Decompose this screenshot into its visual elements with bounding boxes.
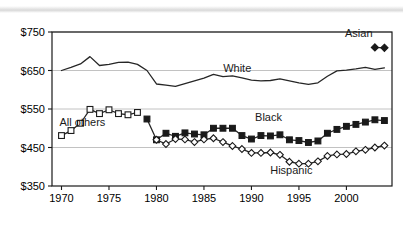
data-point-marker: [116, 111, 122, 117]
data-point-marker: [106, 107, 112, 113]
data-point-marker: [315, 158, 322, 165]
x-axis-tick-label: 1995: [287, 192, 311, 204]
data-point-marker: [381, 44, 388, 51]
data-point-marker: [210, 135, 217, 142]
data-point-marker: [353, 122, 359, 128]
data-point-marker: [239, 133, 245, 139]
series-label-black: Black: [255, 111, 282, 123]
data-point-marker: [248, 149, 255, 156]
data-point-marker: [182, 136, 189, 143]
data-point-marker: [220, 139, 227, 146]
x-axis-tick-label: 1970: [49, 192, 73, 204]
x-axis-tick-label: 1990: [239, 192, 263, 204]
data-point-marker: [144, 116, 150, 122]
data-point-marker: [125, 112, 131, 118]
data-point-marker: [59, 133, 65, 139]
data-point-marker: [211, 125, 217, 131]
y-axis-tick-label: $350: [21, 180, 45, 192]
x-axis-tick-label: 2000: [334, 192, 358, 204]
data-point-marker: [87, 106, 93, 112]
data-point-marker: [334, 151, 341, 158]
x-axis-tick-label: 1975: [97, 192, 121, 204]
chart-plot-area: $350$450$550$650$750 1970197519801985199…: [0, 16, 403, 227]
data-point-marker: [230, 125, 236, 131]
data-point-marker: [191, 139, 198, 146]
data-point-marker: [315, 138, 321, 144]
data-point-marker: [220, 125, 226, 131]
series-label-hispanic: Hispanic: [270, 164, 313, 176]
series-hispanic: [153, 135, 388, 167]
y-axis-tick-label: $750: [21, 26, 45, 38]
series-asian: [371, 44, 388, 52]
data-point-marker: [163, 130, 169, 136]
data-point-marker: [381, 142, 388, 149]
data-point-marker: [382, 118, 388, 124]
data-point-marker: [182, 130, 188, 136]
x-axis-tick-labels: 1970197519801985199019952000: [49, 192, 358, 204]
data-point-marker: [258, 149, 265, 156]
data-point-marker: [306, 140, 312, 146]
data-point-marker: [277, 132, 283, 138]
data-point-marker: [229, 143, 236, 150]
data-point-marker: [287, 137, 293, 143]
data-point-marker: [363, 119, 369, 125]
chart-container: $350$450$550$650$750 1970197519801985199…: [0, 0, 403, 227]
data-point-marker: [192, 131, 198, 137]
data-point-marker: [372, 144, 379, 151]
x-axis-tick-label: 1985: [192, 192, 216, 204]
data-point-marker: [371, 44, 378, 51]
data-point-marker: [296, 138, 302, 144]
data-point-marker: [372, 117, 378, 123]
data-point-marker: [334, 127, 340, 133]
y-axis-tick-label: $450: [21, 142, 45, 154]
series-label-all-others: All others: [59, 116, 105, 128]
y-axis-tick-label: $650: [21, 65, 45, 77]
data-point-marker: [325, 130, 331, 136]
series-annotation-labels: WhiteAll othersBlackHispanicAsian: [59, 27, 372, 175]
data-point-marker: [324, 153, 331, 160]
y-axis-tick-labels: $350$450$550$650$750: [21, 26, 45, 192]
data-point-marker: [258, 133, 264, 139]
data-point-marker: [135, 110, 141, 116]
data-point-marker: [249, 136, 255, 142]
data-point-marker: [239, 146, 246, 153]
series-label-white: White: [223, 62, 251, 74]
data-point-marker: [353, 148, 360, 155]
data-point-marker: [343, 151, 350, 158]
y-axis-tick-label: $550: [21, 103, 45, 115]
series-label-asian: Asian: [345, 27, 373, 39]
top-banner-divider: [0, 6, 403, 13]
data-point-marker: [68, 128, 74, 134]
x-axis-tick-label: 1980: [144, 192, 168, 204]
data-point-marker: [267, 149, 274, 156]
data-point-marker: [268, 133, 274, 139]
line-chart-svg: $350$450$550$650$750 1970197519801985199…: [0, 16, 403, 227]
data-point-marker: [344, 123, 350, 129]
data-point-marker: [163, 141, 170, 148]
